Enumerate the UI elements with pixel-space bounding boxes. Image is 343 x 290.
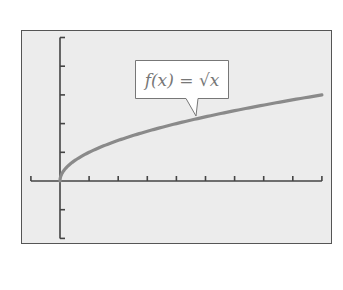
callout: f(x) = √x xyxy=(136,61,229,117)
callout-label: f(x) = √x xyxy=(143,70,220,90)
plot-area: f(x) = √x xyxy=(0,0,343,290)
